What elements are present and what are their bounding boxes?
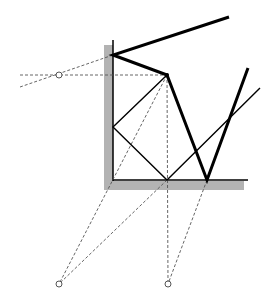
construction-line (20, 55, 113, 87)
construction-line (168, 180, 207, 284)
floor-surface (104, 181, 244, 190)
thick-ray-path (113, 17, 248, 180)
marker-circle (165, 281, 171, 287)
reflection-diagram (0, 0, 272, 306)
marker-circle (56, 72, 62, 78)
thick-ray (113, 17, 248, 180)
marker-circle (56, 281, 62, 287)
wall-surface (104, 45, 113, 190)
construction-line (59, 180, 167, 284)
diagram-canvas (0, 0, 272, 306)
vertex-dot (165, 73, 169, 77)
